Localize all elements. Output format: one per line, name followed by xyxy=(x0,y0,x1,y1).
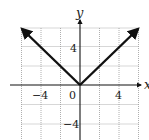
graph: y x −4 0 4 4 −4 xyxy=(0,0,149,140)
tick-x-neg4: −4 xyxy=(32,89,48,102)
tick-origin: 0 xyxy=(69,89,76,102)
y-axis-label: y xyxy=(75,5,84,20)
tick-y-neg4: −4 xyxy=(63,118,79,131)
tick-x-4: 4 xyxy=(115,89,122,102)
tick-y-4: 4 xyxy=(70,42,77,55)
x-axis-label: x xyxy=(144,77,149,92)
